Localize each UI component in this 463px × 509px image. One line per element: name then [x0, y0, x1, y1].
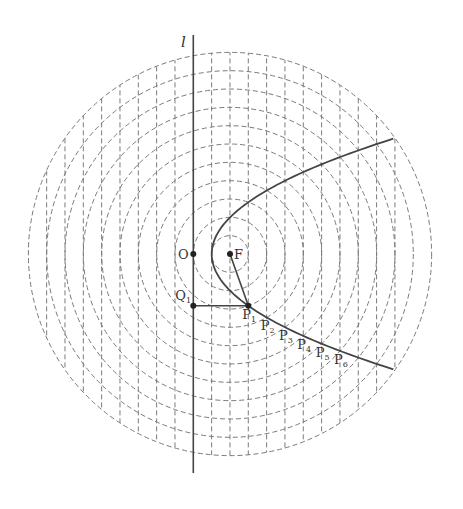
point-q1	[190, 303, 196, 309]
point-o	[190, 251, 196, 257]
label-p6: P6	[334, 352, 348, 369]
labels-p-points: P1P2P3P4P5P6	[242, 307, 347, 369]
parabola-diagram: l O F Q1 P1P2P3P4P5P6	[0, 0, 463, 509]
point-f	[227, 251, 233, 257]
label-p5: P5	[316, 345, 330, 362]
diagram-canvas: l O F Q1 P1P2P3P4P5P6	[0, 0, 463, 509]
label-focus-f: F	[234, 247, 243, 262]
label-directrix-l: l	[181, 33, 186, 51]
label-origin-o: O	[178, 247, 189, 262]
label-p4: P4	[297, 337, 311, 354]
